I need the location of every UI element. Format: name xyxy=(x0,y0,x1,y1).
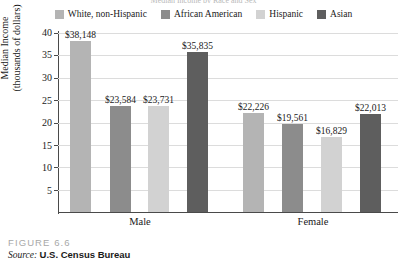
bar-female-asian xyxy=(360,114,381,212)
bar-label-male-hispanic: $23,731 xyxy=(131,95,186,105)
x-category-label-female: Female xyxy=(283,216,343,228)
bar-label-female-african-american: $19,561 xyxy=(265,113,320,123)
y-tick-25-wrap: 25 xyxy=(30,96,52,106)
x-category-label-male: Male xyxy=(110,216,170,228)
y-tick-30-wrap: 30 xyxy=(30,73,52,83)
y-tick-mark-5 xyxy=(54,190,58,191)
y-tick-35-wrap: 35 xyxy=(30,50,52,60)
gridline-30 xyxy=(58,78,398,79)
figure-source: Source: U.S. Census Bureau xyxy=(8,249,328,261)
legend-item-white-non-hispanic: White, non-Hispanic xyxy=(55,9,147,19)
bar-label-male-white-non-hispanic: $38,148 xyxy=(53,30,108,40)
bar-label-female-white-non-hispanic: $22,226 xyxy=(226,102,281,112)
gridline-5 xyxy=(58,190,398,191)
bar-label-male-asian: $35,835 xyxy=(170,41,225,51)
gridline-15 xyxy=(58,145,398,146)
source-label: Source: xyxy=(8,250,37,260)
legend-label-african-american: African American xyxy=(174,9,242,19)
bar-male-white-non-hispanic xyxy=(70,41,91,212)
y-tick-40-wrap: 40 xyxy=(30,28,52,38)
y-tick-15-wrap: 15 xyxy=(30,141,52,151)
y-tick-mark-10 xyxy=(54,167,58,168)
y-axis-title: Median Income (thousands of dollars) xyxy=(0,0,23,133)
legend-swatch-hispanic xyxy=(256,10,265,19)
legend-label-white-non-hispanic: White, non-Hispanic xyxy=(68,9,147,19)
bar-male-asian xyxy=(187,52,208,212)
legend-label-hispanic: Hispanic xyxy=(269,9,303,19)
gridline-35 xyxy=(58,55,398,56)
bar-male-african-american xyxy=(110,106,131,212)
chart-title-text: Median Income by Race and Sex xyxy=(0,0,407,3)
y-axis-title-line2: (thousands of dollars) xyxy=(11,0,23,133)
bar-label-female-hispanic: $16,829 xyxy=(304,126,359,136)
legend-item-asian: Asian xyxy=(317,9,352,19)
y-tick-label-30: 30 xyxy=(32,73,52,83)
y-tick-mark-25 xyxy=(54,100,58,101)
y-tick-label-10: 10 xyxy=(32,163,52,173)
chart-title-cutoff: Median Income by Race and Sex xyxy=(0,0,407,3)
y-tick-label-15: 15 xyxy=(32,141,52,151)
y-tick-mark-20 xyxy=(54,123,58,124)
y-tick-label-40: 40 xyxy=(32,28,52,38)
chart-legend: White, non-Hispanic African American His… xyxy=(0,7,407,21)
x-axis-line xyxy=(58,212,398,213)
y-tick-label-35: 35 xyxy=(32,50,52,60)
legend-swatch-african-american xyxy=(161,10,170,19)
y-tick-label-5: 5 xyxy=(32,186,52,196)
gridline-20 xyxy=(58,123,398,124)
legend-swatch-asian xyxy=(317,10,326,19)
source-value: U.S. Census Bureau xyxy=(40,249,131,260)
y-tick-5-wrap: 5 xyxy=(30,186,52,196)
y-tick-label-25: 25 xyxy=(32,96,52,106)
legend-label-asian: Asian xyxy=(330,9,352,19)
figure-caption: FIGURE 6.6 Source: U.S. Census Bureau xyxy=(8,237,328,261)
bar-female-african-american xyxy=(282,124,303,212)
gridline-10 xyxy=(58,167,398,168)
legend-swatch-white-non-hispanic xyxy=(55,10,64,19)
legend-item-african-american: African American xyxy=(161,9,242,19)
figure-container: Median Income by Race and Sex White, non… xyxy=(0,0,407,263)
y-tick-20-wrap: 20 xyxy=(30,118,52,128)
y-tick-mark-15 xyxy=(54,145,58,146)
y-tick-10-wrap: 10 xyxy=(30,163,52,173)
bar-female-hispanic xyxy=(321,137,342,212)
y-tick-mark-35 xyxy=(54,55,58,56)
y-tick-label-20: 20 xyxy=(32,118,52,128)
y-tick-mark-30 xyxy=(54,78,58,79)
bar-label-female-asian: $22,013 xyxy=(343,103,398,113)
plot-area: $38,148 $23,584 $23,731 $35,835 $22,226 … xyxy=(58,33,398,212)
legend-item-hispanic: Hispanic xyxy=(256,9,303,19)
bar-male-hispanic xyxy=(148,106,169,212)
gridline-40 xyxy=(58,33,398,34)
figure-number: FIGURE 6.6 xyxy=(8,237,328,248)
bar-female-white-non-hispanic xyxy=(243,113,264,212)
y-axis-title-line1: Median Income xyxy=(0,0,11,133)
